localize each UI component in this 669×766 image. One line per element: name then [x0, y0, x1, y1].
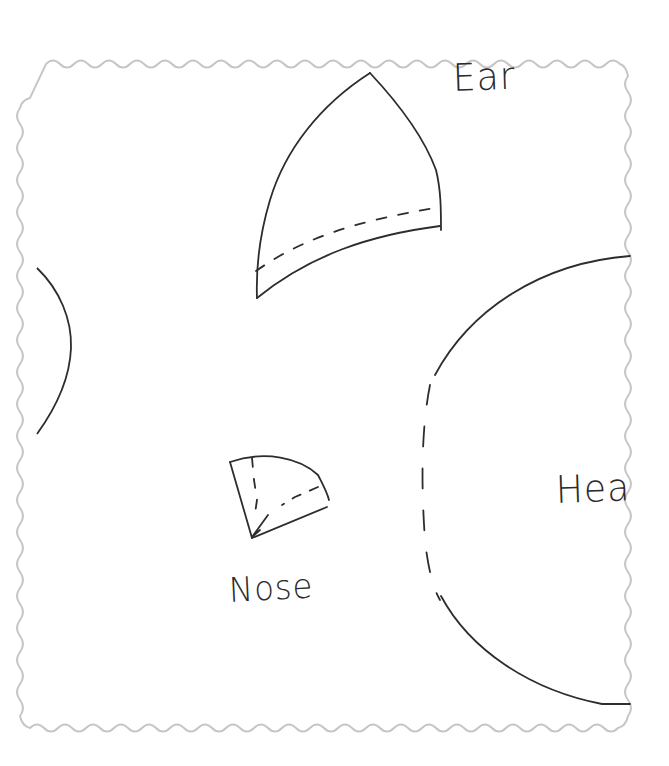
ear-piece: [256, 73, 441, 298]
head-outline-top: [435, 256, 630, 375]
ear-outline-left: [257, 73, 370, 298]
nose-outline-top: [230, 456, 329, 500]
nose-label: Nose: [228, 565, 314, 610]
nose-piece: [230, 456, 329, 538]
ear-outline-right: [370, 73, 441, 230]
head-label: Hea: [555, 465, 631, 512]
nose-arrow-head: [252, 515, 268, 537]
left-partial-piece: [37, 268, 71, 434]
wavy-paper-border: [17, 61, 631, 732]
ear-fold-line: [256, 207, 440, 271]
nose-fold-line-vertical: [252, 458, 257, 520]
head-outline-bottom: [441, 596, 630, 704]
head-dashed-edge: [423, 385, 440, 600]
nose-outline-left: [230, 462, 252, 538]
nose-fold-line-diagonal: [282, 487, 318, 505]
ear-outline-bottom: [257, 226, 440, 298]
pattern-sheet: [0, 0, 669, 766]
ear-label: Ear: [452, 54, 516, 100]
head-label-clip: Hea: [540, 455, 631, 525]
